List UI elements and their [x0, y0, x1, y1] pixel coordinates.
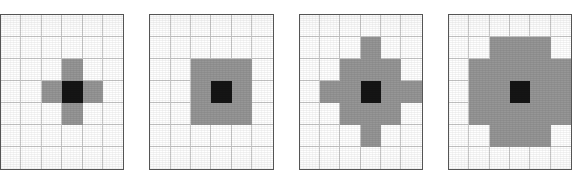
empty-cell	[252, 59, 272, 81]
empty-cell	[171, 147, 191, 169]
empty-cell	[1, 37, 21, 59]
mask-cell	[340, 81, 360, 103]
empty-cell	[21, 125, 41, 147]
empty-cell	[103, 59, 123, 81]
mask-cell	[381, 59, 401, 81]
empty-cell	[211, 15, 231, 37]
empty-cell	[21, 147, 41, 169]
mask-cell	[510, 37, 530, 59]
empty-cell	[320, 15, 340, 37]
empty-cell	[300, 15, 320, 37]
empty-cell	[232, 147, 252, 169]
empty-cell	[401, 59, 421, 81]
empty-cell	[211, 125, 231, 147]
empty-cell	[21, 59, 41, 81]
empty-cell	[401, 103, 421, 125]
empty-cell	[191, 125, 211, 147]
mask-cell	[232, 81, 252, 103]
mask-cell	[510, 59, 530, 81]
empty-cell	[83, 103, 103, 125]
mask-cell	[83, 81, 103, 103]
empty-cell	[62, 125, 82, 147]
empty-cell	[551, 15, 571, 37]
mask-cell	[361, 59, 381, 81]
empty-cell	[191, 147, 211, 169]
empty-cell	[300, 103, 320, 125]
empty-cell	[252, 103, 272, 125]
empty-cell	[1, 125, 21, 147]
empty-cell	[103, 81, 123, 103]
empty-cell	[401, 125, 421, 147]
panel-diamond-mask	[299, 14, 423, 170]
empty-cell	[449, 59, 469, 81]
empty-cell	[103, 147, 123, 169]
empty-cell	[191, 15, 211, 37]
mask-cell	[381, 81, 401, 103]
mask-center-cell	[361, 81, 381, 103]
empty-cell	[42, 37, 62, 59]
mask-cell	[551, 81, 571, 103]
empty-cell	[83, 125, 103, 147]
empty-cell	[171, 81, 191, 103]
empty-cell	[490, 147, 510, 169]
empty-cell	[232, 125, 252, 147]
panel-mask-cells	[1, 15, 123, 169]
empty-cell	[449, 125, 469, 147]
mask-cell	[530, 125, 550, 147]
empty-cell	[103, 103, 123, 125]
empty-cell	[42, 147, 62, 169]
mask-cell	[211, 59, 231, 81]
empty-cell	[510, 147, 530, 169]
empty-cell	[381, 15, 401, 37]
empty-cell	[469, 15, 489, 37]
empty-cell	[150, 103, 170, 125]
empty-cell	[150, 81, 170, 103]
empty-cell	[62, 37, 82, 59]
empty-cell	[21, 81, 41, 103]
mask-cell	[530, 37, 550, 59]
mask-cell	[551, 59, 571, 81]
empty-cell	[320, 37, 340, 59]
empty-cell	[21, 15, 41, 37]
mask-cell	[62, 103, 82, 125]
empty-cell	[252, 81, 272, 103]
mask-cell	[551, 103, 571, 125]
empty-cell	[340, 37, 360, 59]
empty-cell	[1, 147, 21, 169]
empty-cell	[340, 147, 360, 169]
empty-cell	[83, 147, 103, 169]
empty-cell	[150, 125, 170, 147]
mask-cell	[361, 125, 381, 147]
mask-cell	[340, 103, 360, 125]
empty-cell	[449, 81, 469, 103]
mask-cell	[191, 59, 211, 81]
empty-cell	[300, 81, 320, 103]
mask-cell	[490, 81, 510, 103]
panel-plus-mask	[0, 14, 124, 170]
mask-cell	[401, 81, 421, 103]
empty-cell	[320, 125, 340, 147]
empty-cell	[300, 59, 320, 81]
mask-cell	[42, 81, 62, 103]
mask-cell	[469, 59, 489, 81]
panel-mask-cells	[300, 15, 422, 169]
mask-cell	[361, 37, 381, 59]
mask-cell	[320, 81, 340, 103]
mask-center-cell	[510, 81, 530, 103]
empty-cell	[469, 37, 489, 59]
empty-cell	[530, 15, 550, 37]
empty-cell	[469, 147, 489, 169]
empty-cell	[62, 15, 82, 37]
mask-cell	[361, 103, 381, 125]
panel-mask-cells	[150, 15, 272, 169]
mask-cell	[191, 103, 211, 125]
empty-cell	[320, 103, 340, 125]
panel-octagon-mask	[448, 14, 572, 170]
empty-cell	[510, 15, 530, 37]
empty-cell	[490, 15, 510, 37]
mask-cell	[62, 59, 82, 81]
empty-cell	[21, 103, 41, 125]
empty-cell	[551, 147, 571, 169]
empty-cell	[252, 125, 272, 147]
empty-cell	[171, 103, 191, 125]
